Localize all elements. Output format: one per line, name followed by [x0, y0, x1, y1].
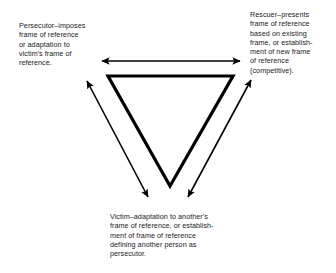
role-triangle-diagram: Persecutor–imposes frame of reference or…: [0, 0, 336, 273]
persecutor-label: Persecutor–imposes frame of reference or…: [19, 21, 111, 67]
rescuer-label: Rescuer–presents frame of reference base…: [250, 10, 336, 75]
victim-label: Victim–adaptation to another's frame of …: [110, 212, 246, 258]
arrow-victim-persecutor: [87, 81, 148, 197]
triangle-outline: [108, 76, 233, 186]
